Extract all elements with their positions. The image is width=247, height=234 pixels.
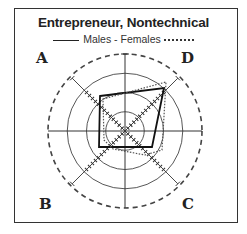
radar-plot xyxy=(0,0,247,234)
radar-grid xyxy=(48,54,202,208)
